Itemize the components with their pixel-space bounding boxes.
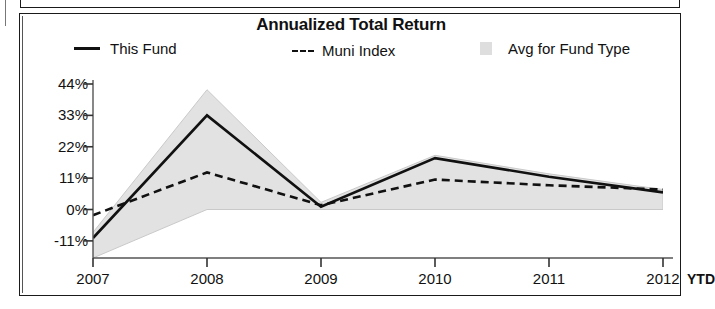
- page-left-edge-sliver: [0, 0, 6, 26]
- y-axis-tick-labels: 44%33%22%11%0%-11%: [20, 14, 88, 297]
- x-axis-tick-labels: 200720082009201020112012YTD: [20, 270, 682, 294]
- x-tick-label: 2010: [418, 270, 451, 287]
- chart-legend: This Fund Muni Index Avg for Fund Type: [20, 40, 682, 66]
- shaded-band-swatch-icon: [480, 42, 492, 55]
- x-tick-label: 2012: [646, 270, 679, 287]
- legend-label-avg-for-fund-type: Avg for Fund Type: [508, 40, 630, 57]
- avg-for-fund-type-band: [93, 90, 663, 258]
- clipped-panel-above: [20, 0, 680, 8]
- legend-item-this-fund[interactable]: This Fund: [74, 40, 177, 57]
- legend-label-muni-index: Muni Index: [322, 42, 395, 59]
- x-tick-label: 2009: [304, 270, 337, 287]
- x-tick-label: 2008: [190, 270, 223, 287]
- legend-item-muni-index[interactable]: Muni Index: [292, 42, 395, 59]
- x-axis-ytd-label: YTD: [687, 271, 715, 287]
- plot-area: [93, 84, 663, 258]
- dashed-line-swatch-icon: [292, 50, 314, 52]
- x-tick-label: 2011: [533, 270, 565, 287]
- chart-title: Annualized Total Return: [20, 15, 682, 35]
- y-tick-label: 22%: [58, 139, 88, 154]
- x-tick-label: 2007: [76, 270, 109, 287]
- y-tick-label: 44%: [58, 76, 88, 91]
- y-tick-label: 0%: [66, 202, 88, 217]
- annualized-total-return-chart-panel: Annualized Total Return This Fund Muni I…: [19, 13, 681, 296]
- legend-label-this-fund: This Fund: [110, 40, 177, 57]
- chart-plot-svg: [93, 84, 663, 258]
- y-tick-label: 33%: [58, 107, 88, 122]
- y-tick-label: 11%: [59, 170, 88, 185]
- legend-item-avg-for-fund-type[interactable]: Avg for Fund Type: [480, 40, 630, 57]
- y-tick-label: -11%: [54, 233, 88, 248]
